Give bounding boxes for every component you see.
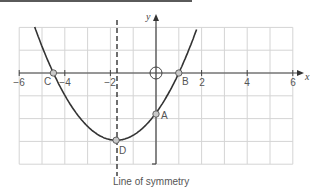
- x-tick-label: 6: [290, 77, 296, 88]
- y-axis-label: y: [145, 11, 151, 22]
- point-label-b: B: [182, 76, 189, 87]
- point-label-a: A: [161, 110, 168, 121]
- x-tick-label: 2: [199, 77, 205, 88]
- x-tick-label: −4: [59, 77, 71, 88]
- point-a-marker: [153, 111, 159, 117]
- point-label-d: D: [119, 145, 126, 156]
- line-of-symmetry-label: Line of symmetry: [113, 176, 189, 187]
- x-tick-label: −2: [104, 77, 116, 88]
- x-tick-label: −6: [13, 77, 25, 88]
- parabola-chart: −6 −4 −2 2 4 6 x y C B A D Line of symme…: [0, 0, 319, 194]
- x-tick-label: 4: [244, 77, 250, 88]
- x-axis-label: x: [304, 71, 310, 82]
- point-d-marker: [113, 137, 119, 143]
- point-label-c: C: [44, 76, 51, 87]
